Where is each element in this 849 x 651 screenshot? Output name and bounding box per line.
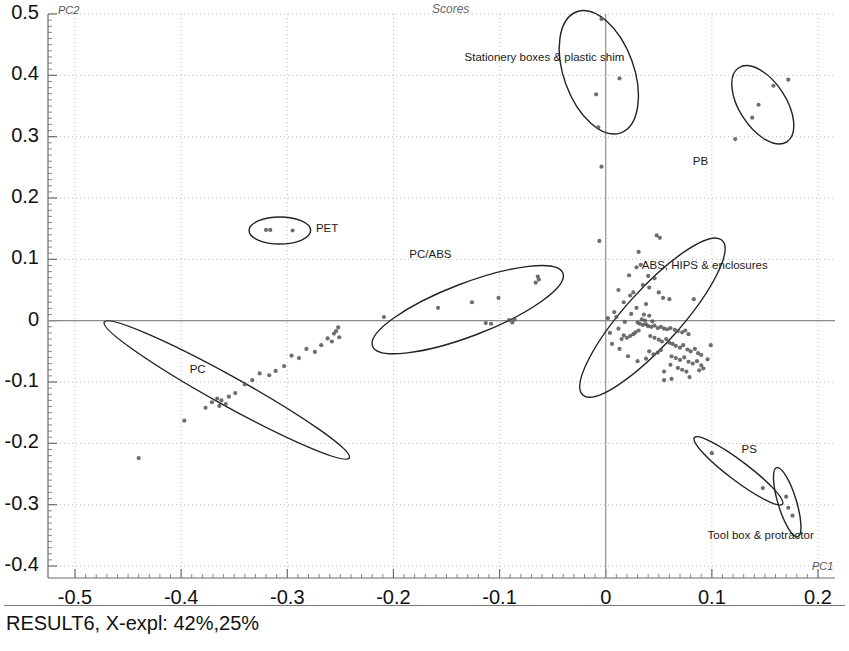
data-point — [786, 78, 790, 82]
data-point — [647, 314, 651, 318]
data-point — [382, 315, 386, 319]
data-point — [680, 368, 684, 372]
y-tick-label: -0.2 — [5, 430, 39, 453]
scores-plot-page: Scores PC2 PC1 0.50.40.30.20.10-0.1-0.2-… — [0, 0, 849, 651]
data-point — [617, 76, 621, 80]
data-point — [674, 344, 678, 348]
data-point — [617, 347, 621, 351]
data-point — [668, 363, 672, 367]
data-point — [695, 359, 699, 363]
data-point — [682, 355, 686, 359]
data-point — [761, 486, 765, 490]
data-point — [656, 350, 660, 354]
zero-reference-lines — [48, 14, 835, 578]
cluster-label-pb: PB — [693, 155, 708, 167]
data-point — [634, 265, 638, 269]
data-point — [217, 404, 221, 408]
data-point — [634, 306, 638, 310]
data-point — [250, 378, 254, 382]
data-point — [330, 339, 334, 343]
y-tick-label: 0.2 — [11, 185, 39, 208]
data-point — [661, 296, 665, 300]
data-point — [669, 354, 673, 358]
data-point — [596, 125, 600, 129]
cluster-ellipse — [544, 0, 654, 145]
data-point — [606, 316, 610, 320]
data-point — [137, 456, 141, 460]
y-tick-label: -0.4 — [5, 553, 39, 576]
data-point — [224, 402, 228, 406]
cluster-ellipse — [97, 309, 356, 471]
data-point — [489, 322, 493, 326]
data-point — [668, 326, 672, 330]
y-tick-label: 0.3 — [11, 124, 39, 147]
pca-scores-scatter-plot — [0, 0, 849, 651]
data-point — [642, 312, 646, 316]
data-point — [710, 451, 714, 455]
data-point — [689, 349, 693, 353]
data-point — [227, 395, 231, 399]
data-point — [623, 320, 627, 324]
data-point — [219, 398, 223, 402]
data-point — [210, 400, 214, 404]
y-tick-label: 0.1 — [11, 246, 39, 269]
cluster-ellipse — [363, 248, 572, 370]
data-point — [215, 396, 219, 400]
data-point — [676, 329, 680, 333]
data-point — [282, 364, 286, 368]
data-point — [616, 288, 620, 292]
data-point — [750, 116, 754, 120]
data-point — [681, 343, 685, 347]
data-point — [336, 325, 340, 329]
data-point — [650, 319, 654, 323]
cluster-label-stationery: Stationery boxes & plastic shim — [465, 51, 625, 63]
data-point — [484, 321, 488, 325]
data-point — [692, 297, 696, 301]
data-point — [631, 290, 635, 294]
data-point — [693, 347, 697, 351]
data-point — [790, 514, 794, 518]
y-tick-label: 0.5 — [11, 1, 39, 24]
data-point — [332, 331, 336, 335]
data-point — [203, 406, 207, 410]
data-point — [297, 356, 301, 360]
data-point — [652, 336, 656, 340]
data-point — [701, 366, 705, 370]
cluster-ellipse — [688, 430, 788, 512]
data-point — [658, 236, 662, 240]
cluster-label-pet: PET — [316, 222, 338, 234]
data-point — [326, 336, 330, 340]
data-point — [686, 332, 690, 336]
axis-lines — [48, 14, 835, 578]
y-tick-label: -0.1 — [5, 369, 39, 392]
data-point — [258, 371, 262, 375]
data-point — [662, 369, 666, 373]
data-point — [264, 228, 268, 232]
data-point — [697, 368, 701, 372]
data-point — [628, 293, 632, 297]
data-point — [657, 290, 661, 294]
data-point — [684, 369, 688, 373]
x-axis-label: PC1 — [812, 560, 833, 572]
cluster-label-ps: PS — [742, 443, 757, 455]
y-tick-label: -0.3 — [5, 492, 39, 515]
data-point — [614, 315, 618, 319]
data-point — [436, 306, 440, 310]
grid-lines — [48, 14, 835, 578]
data-point — [699, 353, 703, 357]
cluster-ellipse — [719, 55, 806, 155]
cluster-label-abs: ABS, HIPS & enclosures — [642, 259, 768, 271]
data-point — [267, 373, 271, 377]
cluster-ellipse — [562, 222, 742, 414]
data-point — [756, 103, 760, 107]
data-point — [651, 352, 655, 356]
data-point — [691, 362, 695, 366]
data-point — [608, 331, 612, 335]
data-point — [629, 312, 633, 316]
data-point — [182, 419, 186, 423]
data-point — [612, 310, 616, 314]
data-point — [709, 343, 713, 347]
cluster-label-pcabs: PC/ABS — [409, 248, 451, 260]
chart-title: Scores — [432, 2, 469, 16]
data-point — [622, 300, 626, 304]
